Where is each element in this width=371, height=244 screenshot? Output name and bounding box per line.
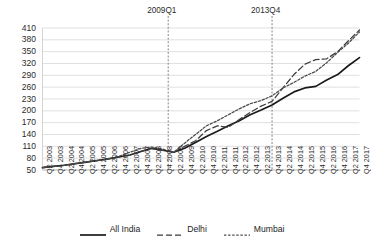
x-tick-label-q4-2003: Q4 2003 bbox=[57, 146, 64, 174]
legend-label: Mumbai bbox=[254, 225, 285, 234]
legend-label: All India bbox=[110, 225, 141, 234]
legend-swatch-dashed-icon bbox=[157, 225, 183, 233]
x-tick-label-q2-2004: Q2 2004 bbox=[68, 146, 75, 174]
x-tick-label-q2-2006: Q2 2006 bbox=[111, 146, 118, 174]
x-tick-label-q4-2014: Q4 2014 bbox=[297, 146, 304, 174]
y-tick-label-140: 140 bbox=[2, 130, 36, 139]
x-tick-label-q4-2012: Q4 2012 bbox=[253, 146, 260, 174]
annotation-label-2013Q4: 2013Q4 bbox=[251, 7, 280, 15]
x-tick-label-q4-2011: Q4 2011 bbox=[232, 147, 239, 174]
y-tick-label-290: 290 bbox=[2, 71, 36, 80]
x-tick-label-q4-2010: Q4 2010 bbox=[210, 146, 217, 174]
x-tick-label-q4-2007: Q4 2007 bbox=[144, 146, 151, 174]
legend-item-all-india[interactable]: All India bbox=[80, 225, 141, 234]
x-tick-label-q2-2009: Q2 2009 bbox=[177, 146, 184, 174]
y-tick-label-200: 200 bbox=[2, 106, 36, 115]
y-tick-label-50: 50 bbox=[2, 166, 36, 175]
x-tick-label-q2-2017: Q2 2017 bbox=[352, 146, 359, 174]
x-tick-label-q2-2011: Q2 2011 bbox=[221, 147, 228, 174]
x-tick-label-q2-2010: Q2 2010 bbox=[199, 146, 206, 174]
x-tick-label-q4-2005: Q4 2005 bbox=[100, 146, 107, 174]
x-tick-label-q2-2012: Q2 2012 bbox=[242, 146, 249, 174]
x-tick-label-q4-2004: Q4 2004 bbox=[78, 146, 85, 174]
x-tick-label-q2-2014: Q2 2014 bbox=[286, 146, 293, 174]
x-tick-label-q2-2003: Q2 2003 bbox=[46, 146, 53, 174]
x-tick-label-q2-2013: Q2 2013 bbox=[264, 146, 271, 174]
y-tick-label-230: 230 bbox=[2, 95, 36, 104]
x-tick-label-q4-2009: Q4 2009 bbox=[188, 146, 195, 174]
x-tick-label-q4-2008: Q4 2008 bbox=[166, 146, 173, 174]
x-tick-label-q4-2015: Q4 2015 bbox=[319, 146, 326, 174]
x-tick-label-q2-2007: Q2 2007 bbox=[133, 146, 140, 174]
x-tick-label-q4-2013: Q4 2013 bbox=[275, 146, 282, 174]
legend-label: Delhi bbox=[187, 225, 207, 234]
legend-item-mumbai[interactable]: Mumbai bbox=[224, 225, 285, 234]
y-tick-label-110: 110 bbox=[2, 142, 36, 151]
x-tick-label-q4-2017: Q4 2017 bbox=[363, 146, 370, 174]
x-tick-label-q2-2008: Q2 2008 bbox=[155, 146, 162, 174]
y-tick-label-350: 350 bbox=[2, 47, 36, 56]
y-tick-label-260: 260 bbox=[2, 83, 36, 92]
x-tick-label-q2-2005: Q2 2005 bbox=[89, 146, 96, 174]
legend-item-delhi[interactable]: Delhi bbox=[157, 225, 207, 234]
y-tick-label-410: 410 bbox=[2, 24, 36, 33]
annotation-label-2009Q1: 2009Q1 bbox=[147, 7, 176, 15]
y-tick-label-320: 320 bbox=[2, 59, 36, 68]
y-tick-label-80: 80 bbox=[2, 154, 36, 163]
x-tick-label-q2-2015: Q2 2015 bbox=[308, 146, 315, 174]
x-tick-label-q4-2006: Q4 2006 bbox=[122, 146, 129, 174]
y-tick-label-170: 170 bbox=[2, 118, 36, 127]
legend-swatch-solid-icon bbox=[80, 225, 106, 233]
x-tick-label-q2-2016: Q2 2016 bbox=[330, 146, 337, 174]
chart-legend: All IndiaDelhiMumbai bbox=[0, 221, 364, 237]
x-tick-label-q4-2016: Q4 2016 bbox=[341, 146, 348, 174]
y-tick-label-380: 380 bbox=[2, 35, 36, 44]
legend-swatch-dotted-icon bbox=[224, 225, 250, 233]
